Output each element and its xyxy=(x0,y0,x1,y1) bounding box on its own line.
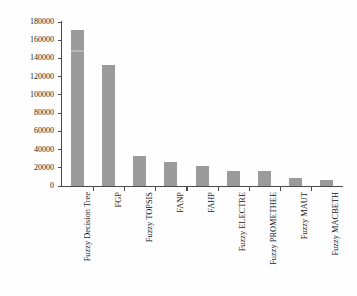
x-axis-tick-mark xyxy=(311,187,312,191)
x-axis-tick-label: FAHP xyxy=(206,192,218,292)
x-axis-tick-label: Fuzzy MACBETH xyxy=(330,192,342,292)
y-axis-tick: 60000 xyxy=(0,126,62,136)
y-axis-tick: 0 xyxy=(0,181,62,191)
x-axis-tick-label: FANP xyxy=(175,192,187,292)
y-axis-tick-label: 0 xyxy=(50,181,54,191)
y-axis-tick-label: 60000 xyxy=(34,126,54,136)
x-axis-line xyxy=(61,186,343,187)
bar xyxy=(320,180,333,186)
y-axis-tick: 180000 xyxy=(0,17,62,27)
y-axis-tick: 40000 xyxy=(0,145,62,155)
y-axis-tick-label: 40000 xyxy=(34,145,54,155)
x-axis-tick-label: Fuzzy Decision Tree xyxy=(82,192,94,292)
y-axis-tick: 140000 xyxy=(0,53,62,63)
bar xyxy=(102,65,115,186)
x-axis-tick-label: Fuzzy TOPSIS xyxy=(144,192,156,292)
y-axis-tick: 80000 xyxy=(0,108,62,118)
y-axis-tick-label: 160000 xyxy=(30,35,54,45)
x-axis-tick-label: FGP xyxy=(113,192,125,292)
bar xyxy=(164,162,177,186)
y-axis-tick: 20000 xyxy=(0,163,62,173)
bar xyxy=(258,171,271,186)
y-axis-tick-label: 120000 xyxy=(30,72,54,82)
bar-chart-figure: No. of References 1800001600001400001200… xyxy=(0,0,357,296)
x-axis-tick-label: Fuzzy MAUT xyxy=(299,192,311,292)
y-axis-tick-label: 180000 xyxy=(30,17,54,27)
y-axis-tick-label: 100000 xyxy=(30,90,54,100)
x-axis-tick-mark xyxy=(155,187,156,191)
x-axis-tick-mark xyxy=(218,187,219,191)
y-axis-tick: 100000 xyxy=(0,90,62,100)
x-axis-tick-mark xyxy=(186,187,187,191)
y-axis-tick-label: 140000 xyxy=(30,53,54,63)
bar-highlight-band xyxy=(71,50,84,52)
y-axis-tick-label: 80000 xyxy=(34,108,54,118)
x-axis-tick-mark xyxy=(280,187,281,191)
y-axis-tick-label: 20000 xyxy=(34,163,54,173)
x-axis-tick-label: Fuzzy PROMETHEE xyxy=(268,192,280,292)
plot-area xyxy=(62,22,342,186)
x-axis-tick-mark xyxy=(93,187,94,191)
x-axis-tick-mark xyxy=(124,187,125,191)
bar xyxy=(227,171,240,186)
bar xyxy=(71,30,84,186)
bar xyxy=(289,178,302,186)
y-axis-tick: 160000 xyxy=(0,35,62,45)
x-axis-tick-mark xyxy=(249,187,250,191)
bar xyxy=(133,156,146,186)
y-axis-tick: 120000 xyxy=(0,72,62,82)
bar xyxy=(196,166,209,186)
x-axis-tick-label: Fuzzy ELECTRE xyxy=(237,192,249,292)
